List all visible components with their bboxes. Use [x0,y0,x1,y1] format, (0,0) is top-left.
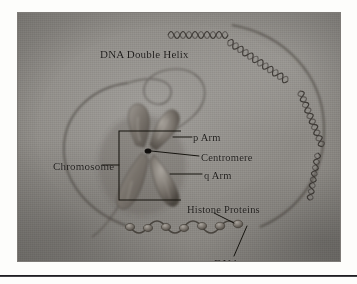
label-histone-proteins: Histone Proteins [187,204,260,215]
document-page: DNA Double Helix Chromosome p Arm Centro… [0,0,357,284]
centromere-dot [145,148,152,153]
label-q-arm: q Arm [204,170,232,181]
label-dna: DNA [214,258,240,261]
leader-dna [234,226,247,256]
label-dna-double-helix: DNA Double Helix [100,48,189,60]
figure-panel: DNA Double Helix Chromosome p Arm Centro… [18,13,340,261]
horizontal-rule [0,275,357,277]
label-chromosome: Chromosome [53,160,114,172]
label-p-arm: p Arm [193,132,221,143]
label-centromere: Centromere [201,152,253,163]
histone-proteins-beads [125,220,242,233]
dna-double-helix-coil [168,32,325,201]
